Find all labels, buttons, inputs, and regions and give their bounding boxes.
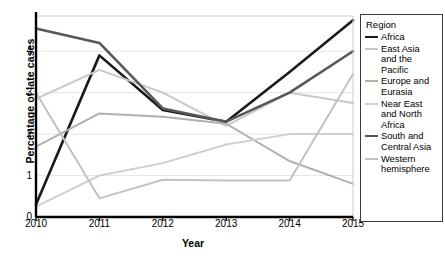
legend-item-label: Western hemisphere	[381, 154, 430, 175]
legend-item[interactable]: Near East and North Africa	[365, 99, 439, 131]
legend-item[interactable]: Africa	[365, 32, 439, 43]
legend-items: AfricaEast Asia and the PacificEurope an…	[365, 32, 439, 175]
legend-item-label: Africa	[381, 32, 405, 43]
legend-item-label: Europe and Eurasia	[381, 76, 429, 97]
legend-item[interactable]: East Asia and the Pacific	[365, 44, 439, 76]
legend-item[interactable]: Europe and Eurasia	[365, 76, 439, 97]
legend-color-swatch-icon	[365, 135, 378, 137]
legend-item-label: Near East and North Africa	[381, 99, 422, 131]
legend-color-swatch-icon	[365, 103, 378, 105]
legend-item[interactable]: South and Central Asia	[365, 131, 439, 152]
legend-color-swatch-icon	[365, 36, 378, 38]
legend-title: Region	[365, 19, 439, 30]
legend-color-swatch-icon	[365, 158, 378, 160]
legend-item[interactable]: Western hemisphere	[365, 154, 439, 175]
gridlines	[36, 51, 353, 175]
legend-color-swatch-icon	[365, 80, 378, 82]
legend-color-swatch-icon	[365, 48, 378, 50]
data-lines	[36, 20, 353, 206]
legend: Region AfricaEast Asia and the PacificEu…	[360, 14, 443, 222]
legend-item-label: East Asia and the Pacific	[381, 44, 420, 76]
chart-figure: Percentage of late cases Year 01234 2010…	[0, 0, 445, 259]
legend-item-label: South and Central Asia	[381, 131, 431, 152]
